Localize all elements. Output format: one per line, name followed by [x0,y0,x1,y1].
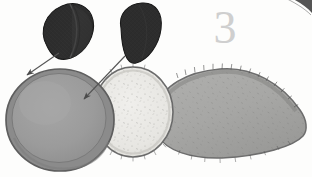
corner-mark-partial-structure [281,0,312,15]
figure-number-label: 3 [203,2,247,54]
specimen-body-elongate [155,64,306,164]
specimen-dark-teardrop-left [43,4,93,60]
figure-illustration: 3 [0,0,312,177]
specimen-dark-teardrop-right [120,3,161,63]
illustration-canvas [0,0,312,177]
